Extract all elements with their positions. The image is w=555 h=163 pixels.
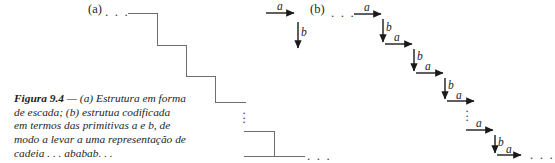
- chain-label-a3: a: [425, 60, 431, 72]
- chain-label-b4: b: [498, 136, 504, 148]
- figure-container: (a) . . . ... . . . Figura 9.4 — (a) Est…: [0, 0, 555, 163]
- panel-b-trailing-ellipsis: . . .: [530, 147, 554, 163]
- arrow-layer: [0, 0, 555, 163]
- chain-label-b2: b: [417, 50, 423, 62]
- panel-b-leading-ellipsis: . . .: [331, 5, 355, 21]
- legend-label-a: a: [277, 0, 283, 12]
- chain-label-b3: b: [448, 79, 454, 91]
- chain-b: [354, 14, 521, 155]
- legend-label-b: b: [301, 26, 307, 38]
- chain-label-b1: b: [386, 21, 392, 33]
- chain-label-a4: a: [456, 89, 462, 101]
- panel-b-label: (b): [310, 2, 325, 17]
- panel-b-vertical-ellipsis: ...: [463, 106, 471, 120]
- chain-label-a1: a: [364, 1, 370, 13]
- chain-label-a5: a: [476, 117, 482, 129]
- chain-label-a2: a: [394, 31, 400, 43]
- chain-label-a6: a: [506, 143, 512, 155]
